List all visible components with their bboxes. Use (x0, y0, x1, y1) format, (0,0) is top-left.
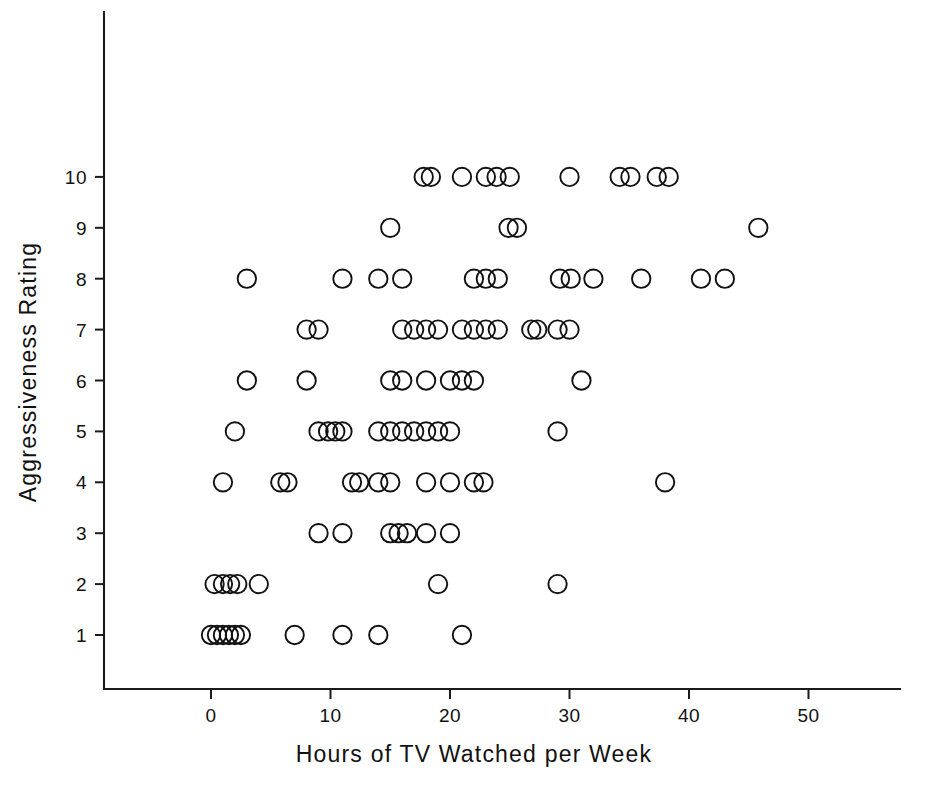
data-point (489, 270, 507, 288)
data-point (238, 371, 256, 389)
x-axis-title: Hours of TV Watched per Week (296, 741, 653, 767)
data-point (465, 371, 483, 389)
y-tick-label: 6 (76, 371, 87, 392)
data-point (381, 473, 399, 491)
data-point (238, 270, 256, 288)
y-tick-label: 5 (76, 421, 87, 442)
y-axis-ticks: 12345678910 (65, 167, 104, 646)
data-point (214, 473, 232, 491)
plot-canvas: 12345678910 01020304050 Hours of TV Watc… (0, 0, 948, 789)
data-point (297, 371, 315, 389)
y-tick-label: 1 (76, 625, 87, 646)
data-point (226, 422, 244, 440)
data-point (477, 168, 495, 186)
data-point (309, 524, 327, 542)
data-point (749, 219, 767, 237)
data-point (656, 473, 674, 491)
data-point (441, 422, 459, 440)
x-tick-label: 0 (205, 705, 216, 726)
y-tick-label: 2 (76, 574, 87, 595)
data-point (692, 270, 710, 288)
y-tick-label: 3 (76, 523, 87, 544)
data-point (560, 168, 578, 186)
data-point (441, 524, 459, 542)
data-point (417, 524, 435, 542)
data-point (393, 270, 411, 288)
data-point (716, 270, 734, 288)
y-tick-label: 4 (76, 472, 87, 493)
data-point (250, 575, 268, 593)
data-point (561, 270, 579, 288)
data-point (551, 270, 569, 288)
x-tick-label: 20 (439, 705, 461, 726)
data-point (333, 524, 351, 542)
x-tick-label: 10 (319, 705, 341, 726)
data-point (621, 168, 639, 186)
data-point (453, 626, 471, 644)
data-point (369, 626, 387, 644)
x-tick-label: 30 (558, 705, 580, 726)
data-point (610, 168, 628, 186)
data-point (453, 168, 471, 186)
x-tick-label: 50 (797, 705, 819, 726)
data-point (560, 320, 578, 338)
data-point (333, 626, 351, 644)
y-tick-label: 9 (76, 218, 87, 239)
data-point (381, 219, 399, 237)
data-point (632, 270, 650, 288)
data-point (285, 626, 303, 644)
data-point (441, 473, 459, 491)
data-point (548, 422, 566, 440)
y-tick-label: 8 (76, 269, 87, 290)
x-axis-ticks: 01020304050 (205, 689, 819, 726)
data-point (548, 575, 566, 593)
scatter-plot-figure: 12345678910 01020304050 Hours of TV Watc… (0, 0, 948, 789)
data-points (202, 168, 768, 645)
data-point (429, 575, 447, 593)
data-point (309, 320, 327, 338)
data-point (417, 473, 435, 491)
data-point (369, 270, 387, 288)
data-point (417, 371, 435, 389)
data-point (572, 371, 590, 389)
y-tick-label: 7 (76, 320, 87, 341)
x-tick-label: 40 (678, 705, 700, 726)
data-point (429, 320, 447, 338)
y-tick-label: 10 (65, 167, 87, 188)
data-point (489, 320, 507, 338)
data-point (333, 270, 351, 288)
y-axis-title: Aggressiveness Rating (15, 242, 41, 502)
data-point (584, 270, 602, 288)
data-point (659, 168, 677, 186)
data-point (501, 168, 519, 186)
data-point (393, 371, 411, 389)
